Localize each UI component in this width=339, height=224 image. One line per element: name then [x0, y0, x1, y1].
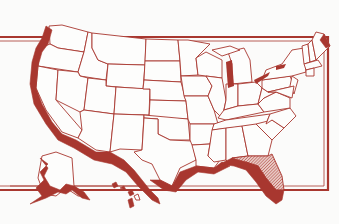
hawaii-island-1 [112, 182, 118, 188]
state-indiana [224, 84, 238, 110]
state-wyoming [106, 64, 145, 89]
state-south-dakota [144, 61, 181, 82]
hawaii-island-5 [128, 198, 134, 208]
state-new-york [262, 48, 306, 80]
state-north-dakota [145, 39, 180, 61]
contiguous-states [36, 25, 330, 190]
state-colorado [114, 87, 150, 115]
hawaii-island-4 [134, 194, 140, 200]
state-new-mexico [110, 114, 144, 152]
us-map [0, 0, 339, 224]
state-montana [92, 33, 146, 65]
state-wisconsin [196, 52, 222, 78]
alaska [30, 152, 90, 204]
